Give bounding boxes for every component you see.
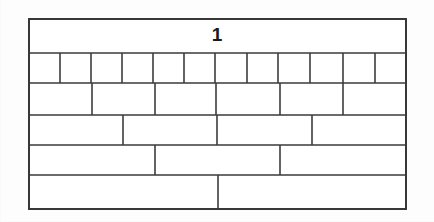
figure-number-label: 1 bbox=[212, 24, 223, 45]
subdivided-rectangle-diagram: 1 bbox=[0, 0, 434, 222]
figure-canvas: 1 bbox=[0, 0, 434, 222]
